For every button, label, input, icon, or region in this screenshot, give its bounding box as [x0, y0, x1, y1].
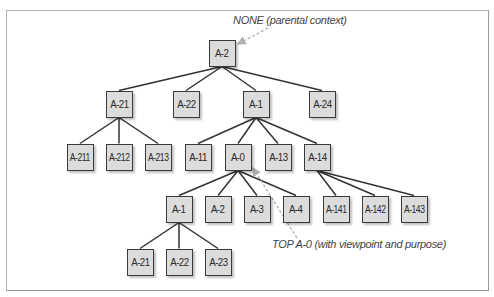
- node-a-142: A-142: [362, 196, 389, 223]
- node-label: A-11: [189, 151, 207, 163]
- node-a-141: A-141: [323, 196, 350, 223]
- node-label: A-1: [249, 98, 262, 110]
- node-a-23: A-23: [205, 249, 232, 276]
- node-a-2: A-2: [205, 196, 232, 223]
- node-a-3: A-3: [244, 196, 271, 223]
- node-label: A-2: [215, 47, 228, 59]
- node-label: A-23: [209, 256, 227, 268]
- node-label: A-21: [110, 98, 128, 110]
- node-label: A-212: [109, 151, 130, 163]
- node-a-1: A-1: [166, 196, 193, 223]
- annotation-pointer-arrow: [238, 28, 268, 44]
- node-a-11: A-11: [185, 144, 212, 171]
- node-a-14: A-14: [304, 144, 331, 171]
- tree-edge: [119, 67, 222, 91]
- node-a-212: A-212: [106, 144, 133, 171]
- annotation-parental-context: NONE (parental context): [233, 14, 347, 26]
- node-label: A-22: [177, 98, 195, 110]
- node-label: A-141: [326, 203, 347, 215]
- node-a-213: A-213: [145, 144, 172, 171]
- node-label: A-142: [365, 203, 386, 215]
- node-label: A-22: [170, 256, 188, 268]
- node-a-143: A-143: [401, 196, 428, 223]
- node-a-0: A-0: [225, 144, 252, 171]
- node-a-21: A-21: [106, 91, 133, 118]
- node-a-22: A-22: [173, 91, 200, 118]
- node-a-2: A-2: [209, 40, 236, 67]
- tree-edge: [256, 118, 317, 144]
- node-label: A-211: [70, 151, 90, 163]
- node-label: A-2: [211, 203, 224, 215]
- node-label: A-143: [404, 203, 425, 215]
- node-label: A-4: [289, 203, 302, 215]
- node-label: A-213: [148, 151, 169, 163]
- tree-edge: [179, 223, 218, 249]
- node-label: A-14: [308, 151, 326, 163]
- node-label: A-24: [313, 98, 331, 110]
- node-a-24: A-24: [309, 91, 336, 118]
- node-a-22: A-22: [166, 249, 193, 276]
- node-a-211: A-211: [67, 144, 94, 171]
- node-a-1: A-1: [243, 91, 270, 118]
- node-label: A-13: [269, 151, 287, 163]
- node-a-4: A-4: [283, 196, 310, 223]
- node-a-21: A-21: [127, 249, 154, 276]
- tree-edge: [179, 171, 238, 196]
- tree-edge: [119, 118, 158, 144]
- node-label: A-1: [172, 203, 185, 215]
- node-label: A-0: [231, 151, 244, 163]
- node-a-13: A-13: [265, 144, 292, 171]
- tree-edge: [80, 118, 119, 144]
- annotation-top-a0: TOP A-0 (with viewpoint and purpose): [272, 238, 446, 250]
- node-label: A-3: [250, 203, 263, 215]
- tree-edge: [140, 223, 179, 249]
- tree-edge: [222, 67, 322, 91]
- node-label: A-21: [131, 256, 149, 268]
